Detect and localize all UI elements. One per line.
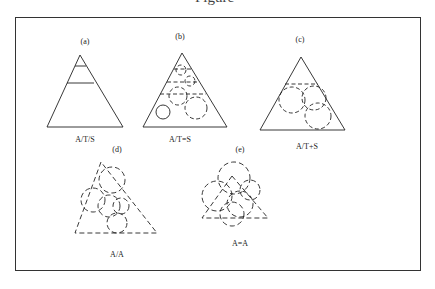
circle-e-3 [227, 191, 253, 217]
panel-d-caption: A/A [110, 250, 124, 259]
circle-b-1 [176, 65, 186, 75]
panel-e-label: (e) [236, 145, 245, 154]
circle-c-2 [302, 86, 326, 110]
circle-c-1 [279, 87, 305, 113]
circle-e-4 [220, 202, 244, 226]
panel-e-caption: A=A [232, 239, 248, 248]
diagram-canvas: (a) A/T/S (b) A/T=S (c) A/T+S (d) A/A (e… [0, 0, 435, 289]
panel-b-label: (b) [175, 32, 185, 41]
panel-c-caption: A/T+S [296, 142, 318, 151]
circle-b-4 [185, 97, 207, 119]
panel-b [143, 53, 227, 127]
panel-a [47, 55, 123, 127]
panel-e [202, 162, 268, 226]
circle-d-5 [113, 198, 129, 214]
circle-b-3 [169, 87, 187, 105]
circle-d-4 [107, 213, 127, 233]
panel-d [75, 162, 157, 233]
triangle-b [143, 53, 227, 127]
panel-b-caption: A/T=S [169, 135, 191, 144]
panel-a-label: (a) [81, 37, 90, 46]
circle-e-2 [202, 181, 232, 211]
circle-d-1 [99, 167, 125, 193]
panel-c [260, 57, 345, 130]
circle-c-3 [305, 103, 331, 129]
panel-a-caption: A/T/S [75, 135, 95, 144]
circle-b-5 [156, 105, 170, 119]
circle-d-2 [81, 188, 105, 212]
circle-d-3 [98, 195, 120, 217]
circle-b-2 [185, 76, 195, 86]
panel-c-label: (c) [296, 35, 305, 44]
panel-d-label: (d) [112, 145, 122, 154]
